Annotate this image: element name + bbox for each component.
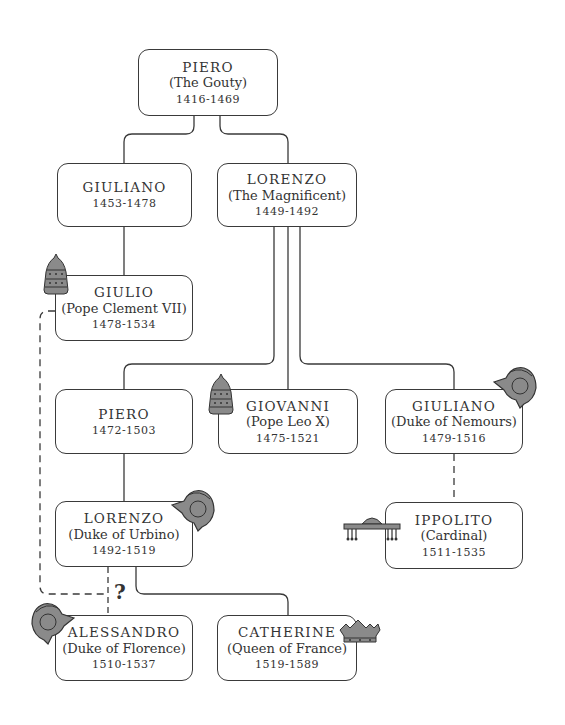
node-name: LORENZO [247,171,328,188]
edge-piero-giuliano [124,116,194,163]
node-title: (The Gouty) [169,75,247,91]
helmet-icon [490,364,542,410]
node-title: (Cardinal) [421,528,488,544]
node-giovanni: GIOVANNI (Pope Leo X) 1475-1521 [218,389,358,454]
node-piero-1472: PIERO 1472-1503 [55,389,193,454]
node-giulio: GIULIO (Pope Clement VII) 1478-1534 [55,275,193,341]
node-name: GIULIANO [82,179,166,196]
node-title: (Pope Clement VII) [61,301,187,317]
node-name: GIULIO [94,284,154,301]
helmet-icon [26,600,78,646]
node-lorenzo-the-magnificent: LORENZO (The Magnificent) 1449-1492 [217,163,357,227]
papal-tiara-icon [42,252,70,296]
node-piero-the-gouty: PIERO (The Gouty) 1416-1469 [138,49,278,116]
node-dates: 1416-1469 [176,93,240,107]
node-dates: 1475-1521 [256,432,320,446]
node-dates: 1453-1478 [92,197,156,211]
node-catherine: CATHERINE (Queen of France) 1519-1589 [217,615,357,681]
node-name: GIOVANNI [246,398,330,415]
edge-lorenzo-giuliano-nemours [300,227,454,389]
node-title: (The Magnificent) [228,188,346,204]
node-dates: 1479-1516 [422,432,486,446]
edge-piero-lorenzo [220,116,288,163]
node-dates: 1472-1503 [92,424,156,438]
node-ippolito: IPPOLITO (Cardinal) 1511-1535 [385,502,523,569]
node-title: (Pope Leo X) [246,414,330,430]
node-title: (Duke of Florence) [62,641,186,657]
node-dates: 1449-1492 [255,205,319,219]
helmet-icon [168,487,220,533]
node-dates: 1519-1589 [255,658,319,672]
node-dates: 1478-1534 [92,318,156,332]
node-title: (Duke of Urbino) [68,527,179,543]
node-name: CATHERINE [238,624,336,641]
node-dates: 1510-1537 [92,658,156,672]
node-name: LORENZO [84,510,165,527]
edge-lorenzo-catherine [136,567,288,615]
medici-family-tree: PIERO (The Gouty) 1416-1469 GIULIANO 145… [0,0,565,725]
cardinal-hat-icon [342,512,402,542]
node-name: ALESSANDRO [68,624,180,641]
papal-tiara-icon [207,372,235,416]
node-name: PIERO [98,406,150,423]
crown-icon [338,618,382,648]
node-dates: 1511-1535 [422,546,486,560]
node-dates: 1492-1519 [92,544,156,558]
node-name: PIERO [182,59,234,76]
node-name: GIULIANO [412,398,496,415]
node-giuliano-1453: GIULIANO 1453-1478 [57,163,192,227]
node-title: (Duke of Nemours) [391,414,517,430]
node-title: (Queen of France) [227,641,347,657]
uncertain-parentage-marker: ? [114,580,126,604]
node-name: IPPOLITO [415,512,494,529]
